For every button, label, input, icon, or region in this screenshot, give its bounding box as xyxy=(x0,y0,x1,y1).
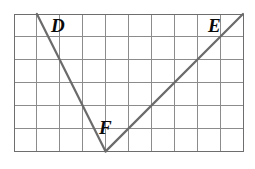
vertex-label-f: F xyxy=(99,118,112,137)
geometry-figure: D E F xyxy=(0,0,255,169)
vertex-label-d: D xyxy=(51,16,65,35)
vertex-label-e: E xyxy=(208,16,221,35)
